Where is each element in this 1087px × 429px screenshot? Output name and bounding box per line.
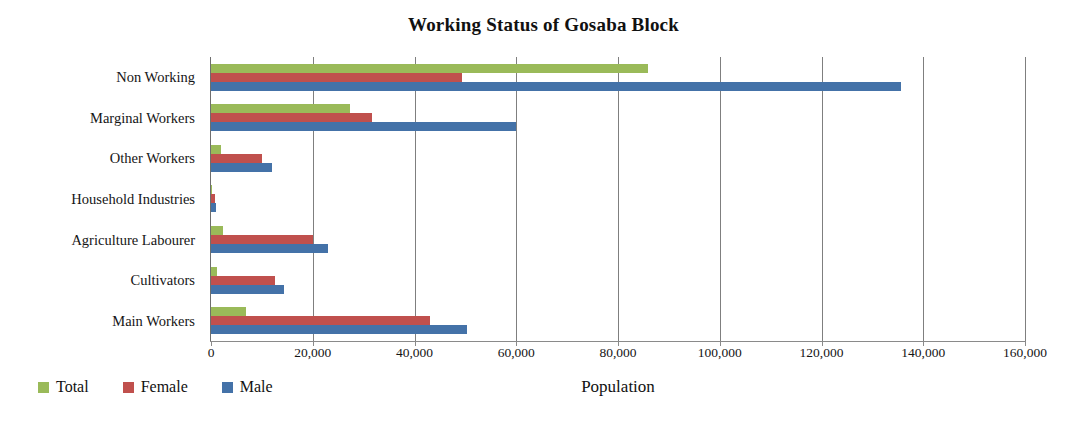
chart-bar	[211, 82, 901, 91]
chart-legend: TotalFemaleMale	[38, 379, 273, 395]
x-tick-mark	[211, 341, 212, 346]
chart-bar	[211, 316, 430, 325]
x-tick-label: 120,000	[800, 345, 844, 361]
y-axis-category-labels: Non WorkingMarginal WorkersOther Workers…	[0, 57, 203, 341]
legend-label: Total	[56, 379, 89, 395]
x-tick-mark	[516, 341, 517, 346]
chart-bar	[211, 203, 216, 212]
y-tick-label: Cultivators	[131, 273, 195, 288]
chart-bar	[211, 285, 284, 294]
chart-bar	[211, 235, 313, 244]
y-tick-label: Other Workers	[110, 151, 195, 166]
x-tick-label: 40,000	[396, 345, 433, 361]
chart-bar	[211, 113, 372, 122]
x-tick-label: 0	[208, 345, 215, 361]
legend-item[interactable]: Total	[38, 379, 89, 395]
chart-bar	[211, 226, 223, 235]
chart-category-row	[211, 138, 1025, 179]
x-tick-mark	[1025, 341, 1026, 346]
y-tick-label: Non Working	[116, 70, 195, 85]
chart-category-row	[211, 219, 1025, 260]
chart-bar	[211, 122, 516, 131]
chart-bar	[211, 163, 272, 172]
chart-category-row	[211, 300, 1025, 341]
legend-swatch-icon	[123, 382, 134, 393]
x-tick-label: 20,000	[294, 345, 331, 361]
x-gridline	[1025, 57, 1026, 341]
x-tick-label: 80,000	[599, 345, 636, 361]
legend-label: Female	[141, 379, 188, 395]
chart-bar	[211, 185, 212, 194]
chart-bar	[211, 104, 350, 113]
x-tick-label: 160,000	[1003, 345, 1047, 361]
legend-label: Male	[240, 379, 273, 395]
x-tick-mark	[720, 341, 721, 346]
x-tick-mark	[822, 341, 823, 346]
chart-bar	[211, 244, 328, 253]
chart-bar	[211, 307, 246, 316]
chart-bar	[211, 64, 648, 73]
x-tick-mark	[618, 341, 619, 346]
chart-bar	[211, 194, 215, 203]
legend-swatch-icon	[38, 382, 49, 393]
chart-bar	[211, 325, 467, 334]
x-tick-label: 60,000	[498, 345, 535, 361]
chart-bar	[211, 267, 217, 276]
legend-item[interactable]: Male	[222, 379, 273, 395]
legend-swatch-icon	[222, 382, 233, 393]
plot-area	[211, 57, 1025, 341]
chart-bar	[211, 276, 275, 285]
chart-bar	[211, 145, 221, 154]
x-tick-mark	[313, 341, 314, 346]
x-tick-label: 140,000	[901, 345, 945, 361]
chart-category-row	[211, 57, 1025, 98]
x-tick-mark	[415, 341, 416, 346]
chart-category-row	[211, 260, 1025, 301]
y-tick-label: Household Industries	[71, 192, 195, 207]
x-axis-tick-labels: 020,00040,00060,00080,000100,000120,0001…	[0, 345, 1087, 367]
y-tick-label: Agriculture Labourer	[71, 233, 195, 248]
chart-bar	[211, 73, 462, 82]
legend-item[interactable]: Female	[123, 379, 188, 395]
x-tick-mark	[923, 341, 924, 346]
chart-category-row	[211, 179, 1025, 220]
x-tick-label: 100,000	[698, 345, 742, 361]
y-tick-label: Main Workers	[112, 314, 195, 329]
chart-title: Working Status of Gosaba Block	[0, 14, 1087, 36]
chart-category-row	[211, 98, 1025, 139]
chart-bar	[211, 154, 262, 163]
chart-container: Working Status of Gosaba Block Non Worki…	[0, 0, 1087, 429]
y-tick-label: Marginal Workers	[90, 111, 195, 126]
x-axis-title: Population	[211, 377, 1025, 397]
